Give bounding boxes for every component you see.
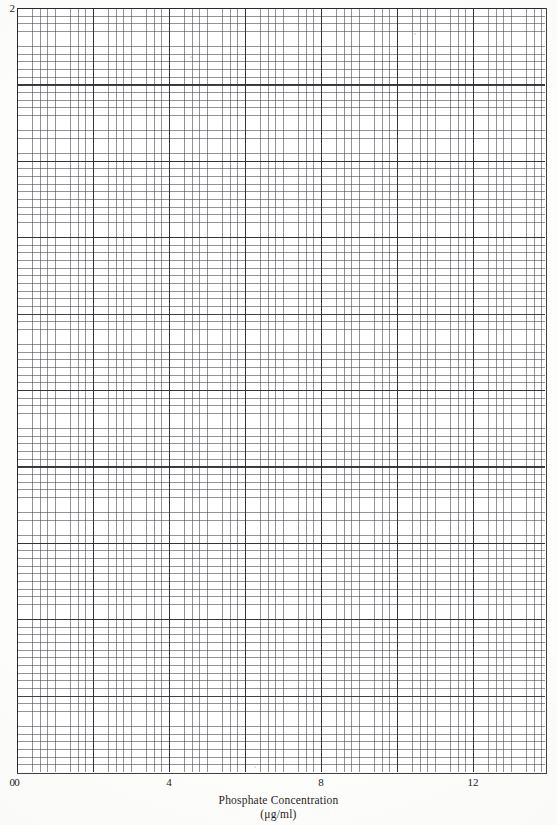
x-axis-title-units: (μg/ml) xyxy=(0,807,557,821)
x-axis-tick-label-4: 4 xyxy=(157,776,181,789)
plot-grid-area xyxy=(17,8,545,772)
x-axis-title: Phosphate Concentration (μg/ml) xyxy=(0,793,557,821)
x-axis-title-line-1: Phosphate Concentration xyxy=(219,794,339,806)
x-axis-tick-label-0: 0 xyxy=(5,776,29,789)
y-axis-tick-label-top: 2 xyxy=(2,2,15,15)
x-axis-tick-label-12: 12 xyxy=(461,776,485,789)
x-axis-tick-label-8: 8 xyxy=(309,776,333,789)
graph-paper-page: 2 0 0 4 8 12 Phosphate Concentration (μg… xyxy=(0,0,557,825)
